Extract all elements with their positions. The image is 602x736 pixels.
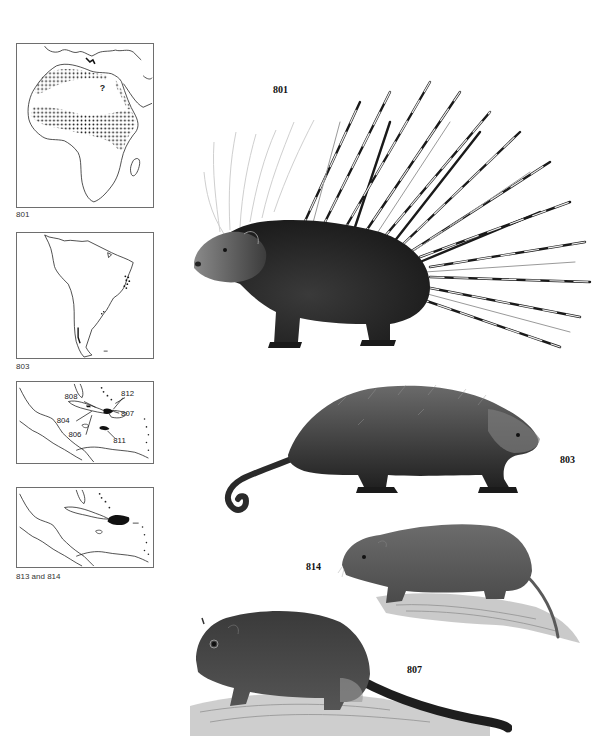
map-label-808: 808 xyxy=(65,392,78,401)
illustration-hutia-807 xyxy=(190,608,512,736)
map-label-811: 811 xyxy=(113,436,125,445)
hutia-814-eye xyxy=(362,555,366,559)
map-label-812: 812 xyxy=(121,389,134,398)
illustration-crested-porcupine xyxy=(190,62,602,357)
plate-label-814: 814 xyxy=(306,561,321,572)
range-map-caribbean: 808 812 804 807 806 811 xyxy=(16,381,154,464)
map-caption-801: 801 xyxy=(16,210,29,219)
hispaniola-map-graphic xyxy=(17,488,153,567)
range-map-hispaniola xyxy=(16,487,154,568)
porcupine-803-eye xyxy=(516,433,520,437)
caribbean-map-graphic: 808 812 804 807 806 811 xyxy=(17,382,153,463)
map-label-806: 806 xyxy=(68,430,81,439)
south-america-map-graphic xyxy=(17,233,153,358)
africa-map-graphic: ? xyxy=(17,44,153,207)
porcupine-801-graphic xyxy=(190,62,602,357)
map-label-804: 804 xyxy=(57,416,71,425)
uncertain-range-marker: ? xyxy=(100,84,105,94)
plate-label-803: 803 xyxy=(560,454,575,465)
hutia-807-eye xyxy=(212,642,216,646)
range-map-africa: ? xyxy=(16,43,154,208)
map-caption-813-814: 813 and 814 xyxy=(16,572,61,581)
map-caption-803: 803 xyxy=(16,362,29,371)
illustration-prehensile-tailed-porcupine xyxy=(218,375,548,515)
map-label-807: 807 xyxy=(121,409,134,418)
porcupine-803-graphic xyxy=(218,375,548,515)
hutia-807-graphic xyxy=(190,608,512,736)
porcupine-eye xyxy=(223,248,227,252)
range-map-south-america xyxy=(16,232,154,359)
